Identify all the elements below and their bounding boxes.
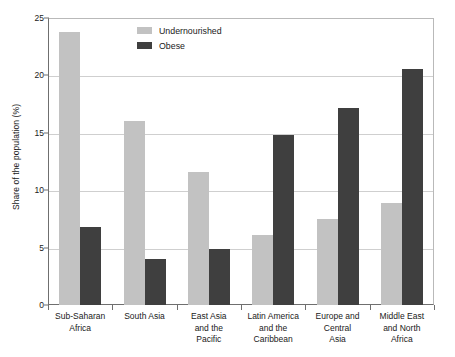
bar-undernourished	[59, 32, 80, 305]
bar-undernourished	[188, 172, 209, 305]
bar-obese	[209, 249, 230, 305]
x-tick-mark	[370, 305, 371, 310]
y-tick-label: 10	[0, 185, 44, 195]
x-tick-mark	[434, 305, 435, 310]
bar-undernourished	[381, 203, 402, 305]
x-tick-label-line: South Asia	[112, 311, 176, 323]
legend-swatch-icon-undernourished	[137, 27, 152, 34]
x-tick-mark	[241, 305, 242, 310]
x-tick-mark	[177, 305, 178, 310]
bar-undernourished	[317, 219, 338, 305]
bar-obese	[145, 259, 166, 305]
bar-obese	[273, 135, 294, 305]
legend-item-obese: Obese	[137, 39, 222, 52]
x-tick-mark	[112, 305, 113, 310]
legend-item-undernourished: Undernourished	[137, 24, 222, 37]
x-tick-label-line: East Asia	[177, 311, 241, 323]
x-tick-label-line: Latin America	[241, 311, 305, 323]
x-tick-label-line: Caribbean	[241, 334, 305, 346]
x-tick-label-line: Central	[305, 323, 369, 335]
bar-obese	[80, 227, 101, 305]
x-tick-label-line: Europe and	[305, 311, 369, 323]
bar-undernourished	[124, 121, 145, 305]
legend-swatch-icon-obese	[137, 42, 152, 49]
bars-layer	[48, 18, 434, 305]
x-tick-label-line: Asia	[305, 334, 369, 346]
y-tick-label: 5	[0, 243, 44, 253]
x-tick-label: Sub-SaharanAfrica	[48, 311, 112, 334]
x-tick-label-line: Africa	[370, 334, 434, 346]
x-tick-label-line: Middle East	[370, 311, 434, 323]
legend-label-undernourished: Undernourished	[159, 26, 222, 36]
chart-legend: Undernourished Obese	[137, 24, 222, 54]
bar-undernourished	[252, 235, 273, 305]
x-tick-label: South Asia	[112, 311, 176, 323]
x-tick-label-line: and the	[177, 323, 241, 335]
x-tick-label-line: Pacific	[177, 334, 241, 346]
x-tick-label: Europe andCentralAsia	[305, 311, 369, 346]
y-tick-label: 0	[0, 300, 44, 310]
x-tick-label: East Asiaand thePacific	[177, 311, 241, 346]
bar-chart: Share of the population (%) 0510152025 S…	[0, 0, 455, 357]
y-axis-title: Share of the population (%)	[11, 57, 21, 257]
x-tick-label: Latin Americaand theCaribbean	[241, 311, 305, 346]
x-tick-label: Middle Eastand NorthAfrica	[370, 311, 434, 346]
x-tick-label-line: Sub-Saharan	[48, 311, 112, 323]
y-tick-label: 25	[0, 13, 44, 23]
x-tick-mark	[305, 305, 306, 310]
y-tick-label: 15	[0, 128, 44, 138]
x-tick-label-line: Africa	[48, 323, 112, 335]
x-tick-mark	[48, 305, 49, 310]
bar-obese	[402, 69, 423, 305]
legend-label-obese: Obese	[159, 41, 185, 51]
x-tick-label-line: and the	[241, 323, 305, 335]
x-tick-label-line: and North	[370, 323, 434, 335]
y-tick-label: 20	[0, 70, 44, 80]
bar-obese	[338, 108, 359, 305]
